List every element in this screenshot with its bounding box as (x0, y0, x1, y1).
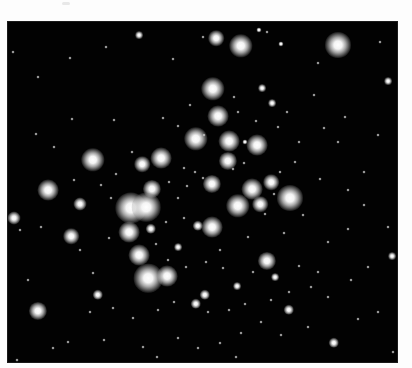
bright-star (146, 224, 156, 234)
bright-star (202, 217, 223, 238)
faint-star (110, 197, 113, 200)
faint-star (183, 167, 186, 170)
faint-star (237, 111, 240, 114)
faint-star (273, 193, 276, 196)
faint-star (279, 171, 282, 174)
faint-star (202, 36, 205, 39)
bright-star (74, 198, 87, 211)
faint-star (162, 117, 165, 120)
faint-star (131, 151, 134, 154)
faint-star (222, 267, 225, 270)
faint-star (377, 134, 380, 137)
faint-star (264, 213, 267, 216)
faint-star (288, 291, 291, 294)
bright-star (81, 148, 104, 171)
bright-star (93, 290, 103, 300)
faint-star (185, 266, 188, 269)
faint-star (189, 104, 192, 107)
bright-star (233, 282, 241, 290)
bright-star (271, 273, 279, 281)
faint-star (112, 307, 115, 310)
bright-star (219, 152, 237, 170)
faint-star (92, 272, 95, 275)
faint-star (363, 204, 366, 207)
faint-star (286, 111, 289, 114)
faint-star (165, 221, 168, 224)
faint-star (347, 189, 350, 192)
faint-star (35, 133, 38, 136)
faint-star (298, 141, 301, 144)
faint-star (207, 311, 210, 314)
bright-star (258, 252, 276, 270)
faint-star (347, 228, 350, 231)
faint-star (327, 241, 330, 244)
faint-star (392, 351, 395, 354)
bright-star (174, 243, 182, 251)
faint-star (367, 266, 370, 269)
bright-star (219, 131, 240, 152)
faint-star (155, 243, 158, 246)
faint-star (379, 41, 382, 44)
faint-star (202, 177, 205, 180)
faint-star (317, 271, 320, 274)
faint-star (232, 168, 235, 171)
faint-star (270, 299, 273, 302)
faint-star (298, 265, 301, 268)
faint-star (387, 226, 390, 229)
faint-star (103, 339, 106, 342)
faint-star (173, 301, 176, 304)
bright-star (284, 305, 294, 315)
bright-star (388, 252, 396, 260)
bright-star (258, 84, 266, 92)
faint-star (19, 229, 22, 232)
faint-star (79, 249, 82, 252)
faint-star (203, 134, 206, 137)
faint-star (219, 342, 222, 345)
faint-star (168, 181, 171, 184)
faint-star (177, 197, 180, 200)
bright-star (252, 196, 268, 212)
bright-star (325, 32, 351, 58)
faint-star (12, 51, 15, 54)
faint-star (113, 119, 116, 122)
bright-star (132, 193, 161, 222)
faint-star (37, 76, 40, 79)
faint-star (194, 171, 197, 174)
faint-star (327, 296, 330, 299)
faint-star (177, 337, 180, 340)
faint-star (52, 347, 55, 350)
bright-star (38, 180, 59, 201)
faint-star (53, 146, 56, 149)
bright-star (135, 31, 143, 39)
faint-star (350, 279, 353, 282)
faint-star (252, 271, 255, 274)
bright-star (226, 194, 249, 217)
faint-star (167, 259, 170, 262)
bright-star (191, 299, 201, 309)
bright-star (8, 212, 21, 225)
bright-star (229, 34, 252, 57)
bright-star (119, 222, 140, 243)
bright-star (256, 27, 261, 32)
faint-star (317, 62, 320, 65)
faint-star (235, 356, 238, 359)
faint-star (280, 334, 283, 337)
faint-star (105, 46, 108, 49)
faint-star (240, 332, 243, 335)
faint-star (40, 226, 43, 229)
bright-star (208, 106, 229, 127)
faint-star (233, 96, 236, 99)
faint-star (157, 309, 160, 312)
faint-star (307, 326, 310, 329)
faint-star (197, 347, 200, 350)
faint-star (115, 173, 118, 176)
faint-star (357, 318, 360, 321)
star-cluster-photo (8, 22, 397, 362)
faint-star (108, 237, 111, 240)
bright-star (329, 338, 339, 348)
bright-star (268, 99, 276, 107)
faint-star (323, 127, 326, 130)
faint-star (310, 286, 313, 289)
bright-star (263, 174, 279, 190)
faint-star (377, 311, 380, 314)
